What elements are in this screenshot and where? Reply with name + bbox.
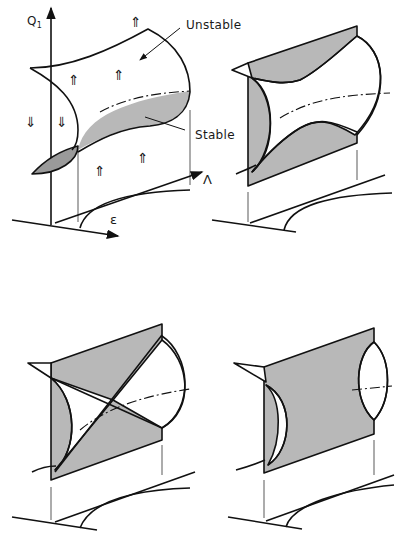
epsilon-axis-label: ε (110, 212, 117, 227)
panel-d (228, 328, 394, 529)
lambda-axis (55, 172, 202, 223)
flow-up-arrow-icon: ⇑ (113, 67, 125, 83)
epsilon-axis (12, 220, 118, 236)
flow-down-arrow-icon: ⇓ (25, 114, 37, 130)
panel-b (212, 26, 392, 232)
stable-label: Stable (195, 128, 235, 142)
panel-a (12, 8, 202, 236)
flow-up-arrow-icon: ⇑ (137, 150, 149, 166)
unstable-label: Unstable (186, 18, 241, 32)
bifurcation-figure (0, 0, 417, 545)
panel-c (12, 324, 195, 530)
flow-up-arrow-icon: ⇑ (130, 14, 142, 30)
flow-up-arrow-icon: ⇑ (68, 72, 80, 88)
flow-up-arrow-icon: ⇑ (94, 163, 106, 179)
q1-axis-label: Q1 (27, 14, 42, 30)
flow-down-arrow-icon: ⇓ (56, 114, 68, 130)
lambda-axis-label: Λ (203, 172, 212, 187)
